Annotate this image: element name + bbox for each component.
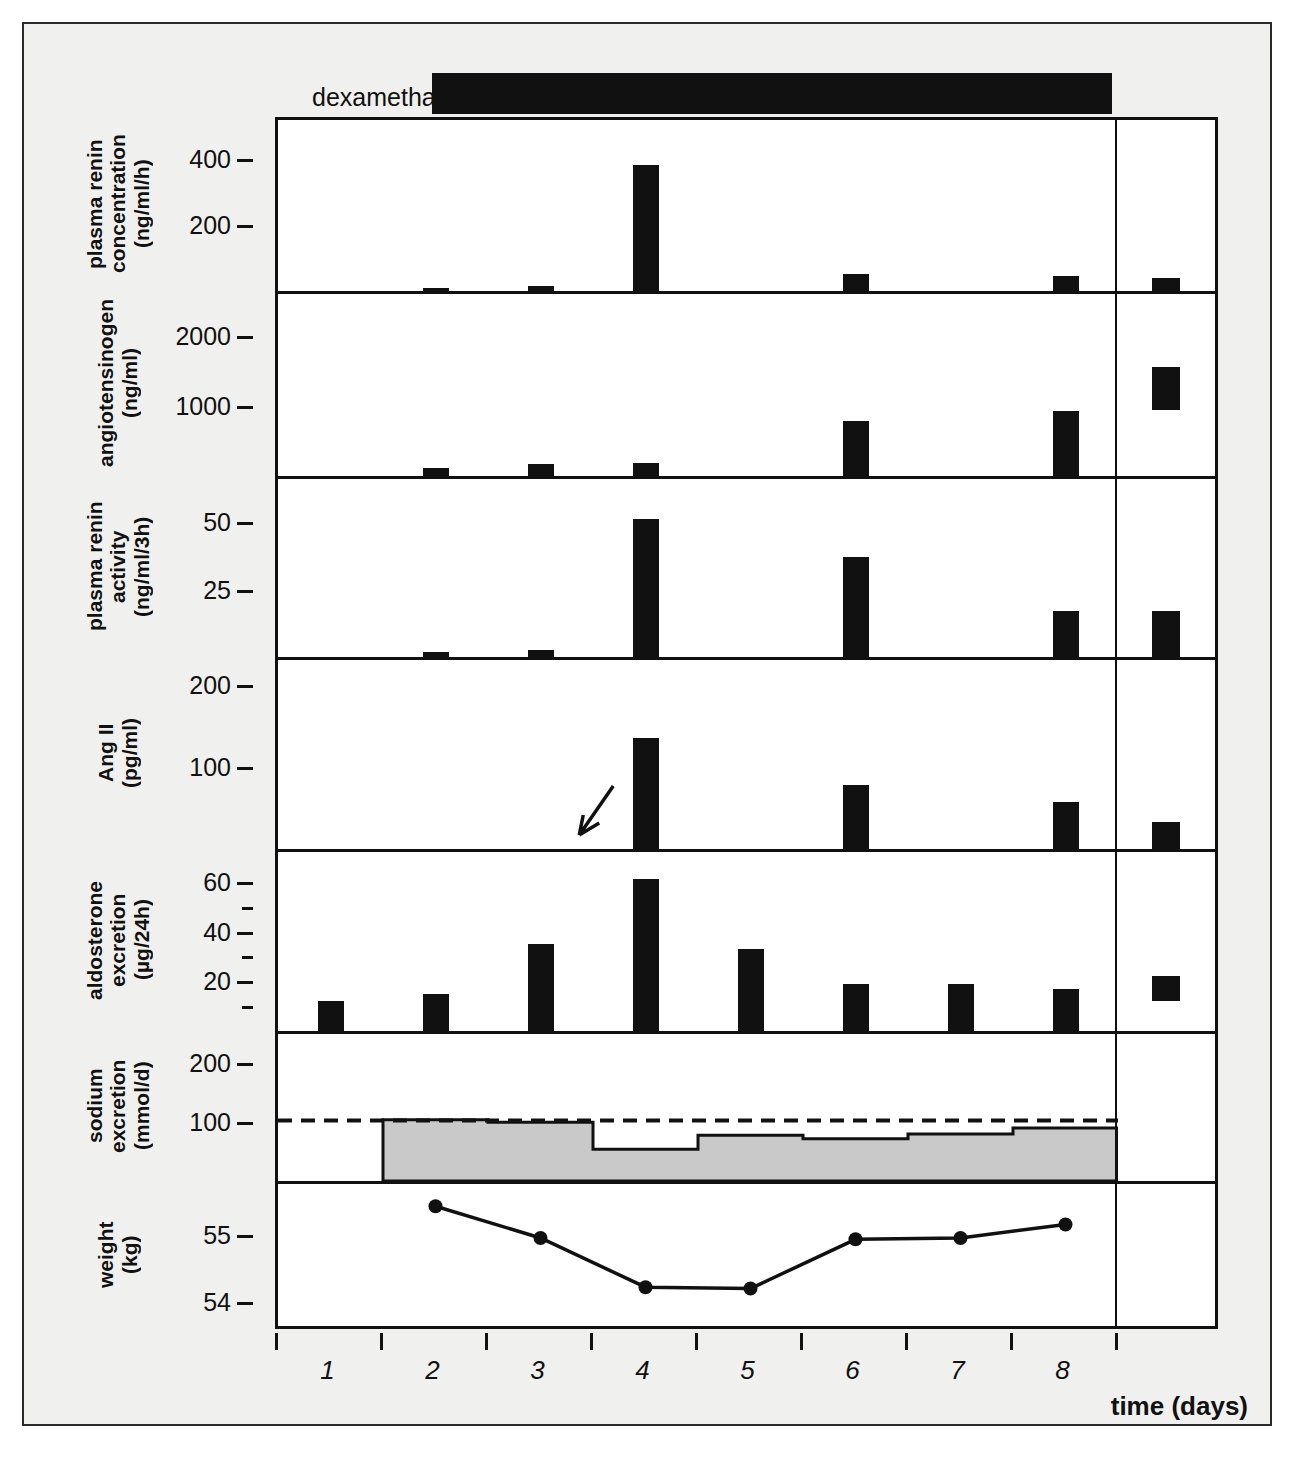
bar bbox=[633, 879, 659, 1031]
panel-plasma-renin-activity bbox=[275, 476, 1218, 657]
bar bbox=[423, 994, 449, 1031]
panel-title-plasma-renin-activity: plasma renin activity (ng/ml/3h) bbox=[58, 476, 178, 657]
normal-range-bar bbox=[1152, 278, 1180, 291]
y-tick-label: 200 bbox=[189, 670, 231, 699]
bar bbox=[948, 984, 974, 1031]
panel-title-angiotensinogen: angiotensinogen (ng/ml) bbox=[58, 291, 178, 476]
normal-range-column bbox=[1115, 852, 1215, 1031]
y-tick-mark bbox=[237, 767, 253, 770]
panel-sodium-excretion bbox=[275, 1031, 1218, 1181]
x-tick-label: 5 bbox=[740, 1355, 754, 1386]
normal-range-column bbox=[1115, 120, 1215, 291]
y-tick-mark bbox=[242, 1006, 253, 1009]
bar bbox=[843, 421, 869, 476]
y-tick-label: 200 bbox=[189, 211, 231, 240]
y-tick-mark bbox=[237, 1063, 253, 1066]
y-tick-mark bbox=[237, 882, 253, 885]
y-tick-label: 55 bbox=[203, 1220, 231, 1249]
y-tick-mark bbox=[237, 981, 253, 984]
plot-area bbox=[278, 479, 1118, 657]
x-tick-mark bbox=[1115, 1333, 1118, 1350]
y-tick-mark bbox=[237, 1302, 253, 1305]
bar bbox=[843, 984, 869, 1031]
y-tick-mark bbox=[237, 685, 253, 688]
plot-area bbox=[278, 660, 1118, 849]
y-tick-mark bbox=[242, 956, 253, 959]
data-point bbox=[534, 1231, 548, 1245]
data-point bbox=[1059, 1217, 1073, 1231]
y-tick-label: 100 bbox=[189, 1108, 231, 1137]
normal-range-column bbox=[1115, 1034, 1215, 1181]
x-axis-title: time (days) bbox=[1111, 1391, 1248, 1422]
bar bbox=[528, 944, 554, 1031]
y-tick-label: 60 bbox=[203, 867, 231, 896]
bar bbox=[633, 519, 659, 657]
normal-range-column bbox=[1115, 479, 1215, 657]
bar bbox=[843, 274, 869, 291]
x-tick-label: 4 bbox=[635, 1355, 649, 1386]
normal-range-bar bbox=[1152, 367, 1180, 410]
normal-range-column bbox=[1115, 660, 1215, 849]
x-tick-mark bbox=[800, 1333, 803, 1350]
bar bbox=[738, 949, 764, 1031]
normal-range-bar bbox=[1152, 611, 1180, 657]
y-tick-label: 2000 bbox=[175, 322, 231, 351]
panel-weight bbox=[275, 1181, 1218, 1329]
y-tick-mark bbox=[242, 907, 253, 910]
y-tick-label: 200 bbox=[189, 1049, 231, 1078]
plot-area bbox=[278, 852, 1118, 1031]
panel-stack bbox=[275, 117, 1218, 1329]
y-tick-mark bbox=[237, 336, 253, 339]
y-tick-label: 25 bbox=[203, 575, 231, 604]
annotation-arrow-icon bbox=[278, 660, 1118, 849]
bar bbox=[843, 557, 869, 657]
y-tick-label: 100 bbox=[189, 752, 231, 781]
x-tick-mark bbox=[1010, 1333, 1013, 1350]
bar bbox=[318, 1001, 344, 1031]
data-point bbox=[849, 1232, 863, 1246]
y-tick-mark bbox=[237, 225, 253, 228]
bar bbox=[528, 650, 554, 657]
y-tick-label: 40 bbox=[203, 917, 231, 946]
x-tick-label: 7 bbox=[950, 1355, 964, 1386]
y-tick-mark bbox=[237, 932, 253, 935]
x-tick-mark bbox=[275, 1333, 278, 1350]
x-tick-label: 1 bbox=[320, 1355, 334, 1386]
data-point bbox=[639, 1280, 653, 1294]
panel-angiotensinogen bbox=[275, 291, 1218, 476]
y-tick-label: 54 bbox=[203, 1288, 231, 1317]
normal-range-column bbox=[1115, 1184, 1215, 1326]
x-tick-mark bbox=[590, 1333, 593, 1350]
panel-ang-ii bbox=[275, 657, 1218, 849]
plot-area bbox=[278, 294, 1118, 476]
sodium-step-area bbox=[278, 1034, 1118, 1181]
bar bbox=[423, 468, 449, 476]
normal-range-bar bbox=[1152, 822, 1180, 849]
panel-title-plasma-renin-concentration: plasma renin concentration (ng/ml/h) bbox=[58, 117, 178, 291]
x-tick-label: 2 bbox=[425, 1355, 439, 1386]
panel-title-ang-ii: Ang II (pg/ml) bbox=[58, 657, 178, 849]
x-tick-label: 6 bbox=[845, 1355, 859, 1386]
plot-area bbox=[278, 120, 1118, 291]
normal-range-column bbox=[1115, 294, 1215, 476]
plot-area bbox=[278, 1034, 1118, 1181]
figure-root: dexamethasone (2mg/d) normalrange plasma… bbox=[0, 0, 1303, 1483]
normal-range-bar bbox=[1152, 976, 1180, 1001]
y-tick-mark bbox=[237, 1122, 253, 1125]
panel-title-weight: weight (kg) bbox=[58, 1181, 178, 1329]
x-tick-label: 3 bbox=[530, 1355, 544, 1386]
bar bbox=[1053, 276, 1079, 291]
data-point bbox=[954, 1231, 968, 1245]
x-tick-mark bbox=[695, 1333, 698, 1350]
x-tick-mark bbox=[905, 1333, 908, 1350]
bar bbox=[633, 165, 659, 291]
bar bbox=[528, 464, 554, 476]
bar bbox=[1053, 989, 1079, 1031]
x-tick-mark bbox=[485, 1333, 488, 1350]
y-tick-label: 20 bbox=[203, 967, 231, 996]
panel-title-sodium-excretion: sodium excretion (mmol/d) bbox=[58, 1031, 178, 1181]
dexamethasone-treatment-bar bbox=[432, 73, 1112, 114]
y-tick-mark bbox=[237, 590, 253, 593]
bar bbox=[633, 463, 659, 476]
y-tick-mark bbox=[237, 522, 253, 525]
